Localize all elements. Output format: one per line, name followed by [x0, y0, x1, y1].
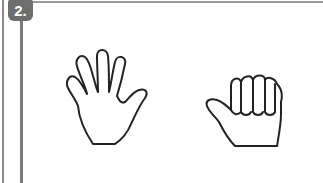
- fist-thumb-out-icon: [205, 72, 300, 150]
- left-edge-line: [2, 0, 4, 183]
- exercise-number-badge: 2.: [8, 0, 33, 21]
- exercise-number: 2.: [14, 2, 27, 19]
- open-hand-icon: [65, 44, 170, 148]
- top-rule: [30, 1, 323, 3]
- badge-stem-line: [20, 20, 23, 183]
